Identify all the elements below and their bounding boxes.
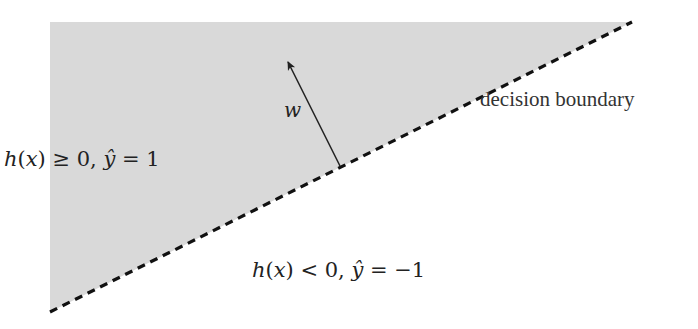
negative-region-label: h(x) < 0, ŷ = −1 — [252, 258, 425, 282]
label-h: h — [4, 147, 18, 171]
decision-boundary-label: decision boundary — [480, 87, 635, 111]
normal-vector-label: w — [284, 98, 301, 122]
label-open-paren: ( — [18, 147, 26, 171]
label-h: h — [252, 258, 266, 282]
label-rest: = −1 — [363, 258, 425, 282]
label-close-paren: ) — [38, 147, 46, 171]
label-x: x — [274, 258, 286, 282]
label-close-paren: ) — [286, 258, 294, 282]
diagram-svg: w h(x) ≥ 0, ŷ = 1 h(x) < 0, ŷ = −1 decis… — [0, 0, 698, 329]
label-relation: ≥ 0, — [46, 147, 104, 171]
label-open-paren: ( — [266, 258, 274, 282]
label-x: x — [26, 147, 38, 171]
positive-region-label: h(x) ≥ 0, ŷ = 1 — [4, 147, 160, 171]
label-rest: = 1 — [115, 147, 159, 171]
decision-boundary-diagram: w h(x) ≥ 0, ŷ = 1 h(x) < 0, ŷ = −1 decis… — [0, 0, 698, 329]
label-relation: < 0, — [294, 258, 352, 282]
